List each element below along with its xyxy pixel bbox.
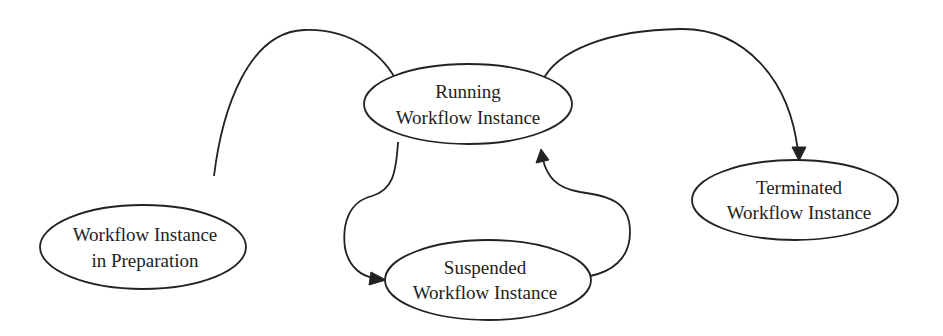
node-label-line1: Workflow Instance (73, 224, 218, 245)
node-label-line2: Workflow Instance (413, 282, 558, 303)
node-label-line2: Workflow Instance (727, 202, 872, 223)
state-node-running: Running Workflow Instance (364, 64, 572, 144)
arrowhead-icon (792, 147, 806, 161)
node-label-line2: in Preparation (91, 250, 199, 271)
node-label-line1: Running (435, 81, 501, 102)
node-label-line1: Terminated (756, 177, 843, 198)
arrowhead-icon (369, 272, 386, 285)
state-node-terminated: Terminated Workflow Instance (692, 160, 898, 240)
node-label-line1: Suspended (444, 257, 527, 278)
arrowhead-icon (536, 149, 549, 163)
state-node-suspended: Suspended Workflow Instance (385, 240, 591, 320)
node-label-line2: Workflow Instance (396, 107, 541, 128)
edge-running-to-terminated (542, 29, 806, 161)
edge-running-to-suspended (344, 142, 398, 285)
state-diagram: Workflow Instance in Preparation Running… (0, 0, 943, 336)
state-node-preparation: Workflow Instance in Preparation (40, 205, 246, 289)
